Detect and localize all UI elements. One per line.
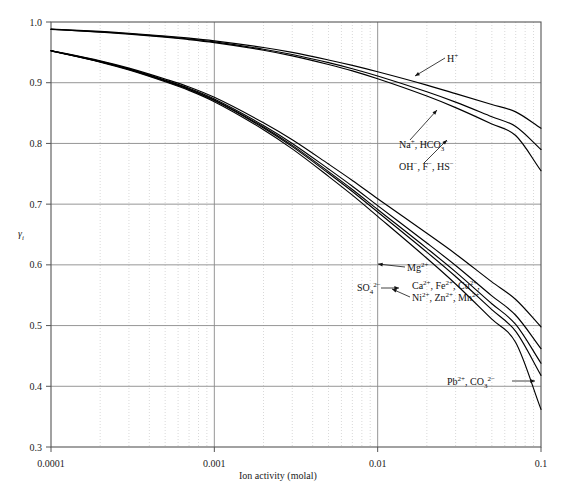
y-tick-label: 0.8 — [30, 138, 43, 149]
y-tick-label: 0.6 — [30, 259, 43, 270]
x-tick-label: 0.01 — [369, 458, 387, 469]
ion-activity-coefficient-chart: 0.00010.0010.010.1 0.30.40.50.60.70.80.9… — [0, 0, 562, 500]
annotation-oh-f-hs: OH−, F−, HS− — [399, 160, 454, 172]
x-tick-label: 0.1 — [535, 458, 548, 469]
x-tick-label: 0.0001 — [37, 458, 65, 469]
y-tick-label: 0.4 — [30, 381, 43, 392]
chart-background — [0, 0, 562, 500]
y-tick-label: 0.7 — [30, 199, 43, 210]
y-tick-label: 0.9 — [30, 77, 43, 88]
y-tick-label: 0.5 — [30, 320, 43, 331]
x-tick-label: 0.001 — [203, 458, 226, 469]
y-tick-label: 1.0 — [30, 17, 43, 28]
chart-root: 0.00010.0010.010.1 0.30.40.50.60.70.80.9… — [0, 0, 562, 500]
y-tick-label: 0.3 — [30, 442, 43, 453]
x-axis-title: Ion activity (molal) — [239, 470, 317, 482]
